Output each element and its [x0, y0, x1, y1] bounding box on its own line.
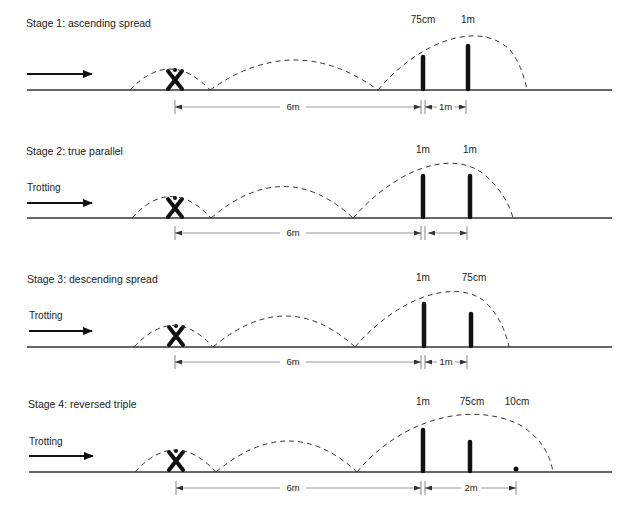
pole-height-label: 75cm [411, 14, 435, 25]
pole-height-label: 1m [416, 396, 430, 407]
distance-dimension: 6m [175, 226, 467, 240]
stage-title: Stage 4: reversed triple [28, 398, 137, 410]
distance-dimension: 6m 1m [175, 100, 466, 114]
cross-marker-icon [169, 449, 183, 470]
svg-text:1m: 1m [439, 356, 452, 367]
pole-height-label: 1m [416, 144, 430, 155]
pole-height-label: 75cm [462, 272, 486, 283]
approach-label: Trotting [29, 436, 63, 447]
stage-4: Stage 4: reversed triple Trotting 1m 75c… [28, 396, 612, 495]
pole-10cm [514, 467, 519, 472]
svg-text:6m: 6m [286, 482, 299, 493]
stride-arc [216, 441, 357, 472]
jump-arc [355, 291, 509, 347]
svg-text:6m: 6m [286, 227, 299, 238]
jump-grid-diagram: Stage 1: ascending spread 75cm 1m 6m 1m … [0, 0, 624, 522]
stage-title: Stage 3: descending spread [27, 273, 158, 285]
cross-marker-icon [168, 196, 182, 217]
pole-height-label: 1m [463, 144, 477, 155]
stage-3: Stage 3: descending spread Trotting 1m 7… [27, 272, 612, 369]
cross-marker-icon [168, 68, 182, 89]
stage-title: Stage 1: ascending spread [26, 17, 151, 29]
stage-2: Stage 2: true parallel Trotting 1m 1m 6m [26, 144, 612, 240]
jump-arc [353, 163, 513, 218]
cross-marker-icon [169, 324, 183, 345]
distance-dimension: 6m 2m [176, 481, 516, 495]
svg-text:2m: 2m [464, 482, 477, 493]
stride-arc [210, 60, 378, 90]
distance-dimension: 6m 1m [175, 355, 467, 369]
stage-title: Stage 2: true parallel [26, 145, 123, 157]
jump-arc [357, 414, 553, 472]
jump-arc [378, 36, 527, 90]
approach-label: Trotting [29, 310, 63, 321]
pole-height-label: 75cm [460, 396, 484, 407]
pole-height-label: 1m [461, 14, 475, 25]
stage-1: Stage 1: ascending spread 75cm 1m 6m 1m [26, 14, 612, 114]
pole-height-label: 1m [416, 272, 430, 283]
approach-label: Trotting [27, 182, 61, 193]
svg-text:6m: 6m [286, 356, 299, 367]
stride-arc [213, 316, 355, 347]
svg-text:1m: 1m [439, 101, 452, 112]
stride-arc [211, 187, 353, 219]
pole-height-label: 10cm [505, 396, 529, 407]
svg-text:6m: 6m [286, 101, 299, 112]
